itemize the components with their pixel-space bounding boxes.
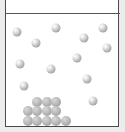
free-particle bbox=[73, 54, 82, 63]
packed-particle bbox=[51, 106, 61, 116]
free-particle bbox=[20, 82, 29, 91]
packed-particle bbox=[32, 106, 42, 116]
free-particle bbox=[32, 39, 41, 48]
free-particle bbox=[13, 28, 22, 37]
free-particle bbox=[80, 34, 89, 43]
particle-layer bbox=[0, 0, 125, 132]
free-particle bbox=[52, 24, 61, 33]
free-particle bbox=[103, 44, 112, 53]
packed-particle bbox=[32, 116, 42, 126]
free-particle bbox=[83, 75, 92, 84]
free-particle bbox=[89, 97, 98, 106]
free-particle bbox=[99, 24, 108, 33]
free-particle bbox=[47, 65, 56, 74]
packed-particle bbox=[61, 116, 71, 126]
packed-particle bbox=[51, 116, 61, 126]
free-particle bbox=[16, 60, 25, 69]
